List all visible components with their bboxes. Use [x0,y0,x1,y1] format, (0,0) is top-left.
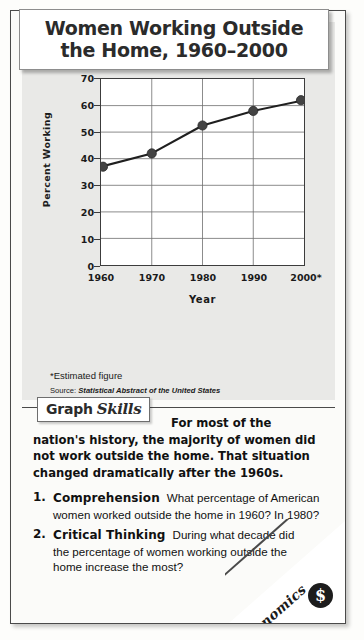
page-frame: Percent Working 70 60 50 40 30 20 10 0 [10,10,346,624]
y-tick-mark-0 [94,266,100,267]
x-tick-1990: 1990 [226,272,282,283]
x-tick-1980: 1980 [175,272,231,283]
line-chart-svg [101,79,304,265]
chart-title-line-2: the Home, 1960–2000 [26,39,322,61]
y-tick-70: 70 [54,73,94,84]
source-title: Statistical Abstract of the United State… [78,386,220,395]
y-tick-30: 30 [54,180,94,191]
data-point-2000 [296,96,304,105]
intro-paragraph: For most of the nation's history, the ma… [33,415,325,481]
chart-panel: Percent Working 70 60 50 40 30 20 10 0 [22,22,335,400]
question-number-1: 1. [33,490,46,506]
data-point-1960 [101,162,108,171]
x-axis-label: Year [100,294,305,305]
y-tick-10: 10 [54,234,94,245]
economics-corner-banner: Economics $ [225,519,345,623]
question-item-1: 1. ComprehensionWhat percentage of Ameri… [33,490,325,522]
worksheet-page: Percent Working 70 60 50 40 30 20 10 0 [0,0,364,640]
y-tick-60: 60 [54,100,94,111]
graph-skills-badge: GraphSkills [37,397,150,422]
graph-skills-word1: Graph [46,401,93,417]
y-tick-20: 20 [54,207,94,218]
y-tick-40: 40 [54,153,94,164]
chart-title-line-1: Women Working Outside [26,17,322,39]
question-label-2: Critical Thinking [53,528,166,542]
data-point-1970 [147,149,156,158]
estimated-figure-footnote: *Estimated figure [50,370,122,381]
plot-area-wrapper: Percent Working 70 60 50 40 30 20 10 0 [22,68,335,328]
y-tick-0: 0 [54,261,94,272]
chart-title-box: Women Working Outside the Home, 1960–200… [19,9,329,70]
x-tick-1960: 1960 [73,272,129,283]
data-point-1990 [249,106,258,115]
dollar-sign-icon: $ [308,583,333,608]
question-number-2: 2. [33,527,46,543]
x-tick-1970: 1970 [124,272,180,283]
vertical-gridlines [152,79,254,265]
source-line: Source: Statistical Abstract of the Unit… [50,386,220,395]
y-tick-50: 50 [54,127,94,138]
question-label-1: Comprehension [53,491,160,505]
line-chart-plot [100,78,305,266]
graph-skills-word2: Skills [97,400,141,418]
source-label: Source: [50,386,76,395]
x-tick-2000: 2000* [278,272,334,283]
data-point-1980 [198,121,207,130]
y-axis-label: Percent Working [41,100,52,220]
